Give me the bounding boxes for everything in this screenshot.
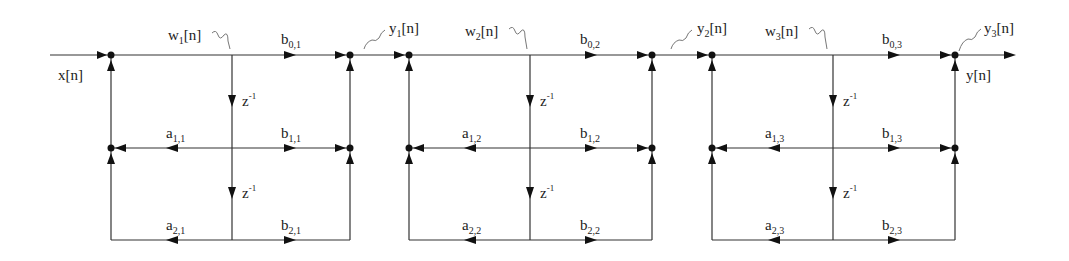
arrow-right-icon — [585, 144, 597, 152]
arrow-left-icon — [413, 144, 424, 152]
arrow-right-icon — [335, 144, 346, 152]
arrow-up-icon — [648, 153, 656, 164]
input-arrow-icon — [97, 51, 107, 59]
adder-node — [709, 52, 716, 59]
coef-a2: a2,2 — [462, 217, 481, 236]
arrow-right-icon — [637, 144, 648, 152]
arrow-up-icon — [346, 153, 354, 164]
coef-b1: b1,1 — [281, 125, 301, 144]
coef-b1: b1,2 — [580, 125, 600, 144]
arrow-right-icon — [940, 51, 951, 59]
adder-node — [709, 145, 716, 152]
coef-a2: a2,3 — [765, 217, 784, 236]
output-node-label: y3[n] — [984, 20, 1014, 39]
delay-label: z-1 — [843, 183, 857, 201]
arrow-right-icon — [697, 51, 708, 59]
coef-a1: a1,1 — [166, 125, 185, 144]
arrow-right-icon — [888, 236, 900, 244]
arrow-right-icon — [284, 51, 296, 59]
arrow-right-icon — [284, 236, 296, 244]
adder-node — [406, 145, 413, 152]
coef-b2: b2,3 — [882, 217, 902, 236]
coef-a1: a1,3 — [765, 125, 784, 144]
arrow-right-icon — [585, 236, 597, 244]
state-label: w2[n] — [465, 23, 498, 42]
section-2: z-1 z-1 w2[n] y2[n] b0,2 a1,2 b1,2 a2,2 … — [405, 20, 727, 244]
output-arrow-icon — [1004, 51, 1016, 59]
adder-node — [108, 52, 115, 59]
arrow-left-icon — [464, 236, 476, 244]
arrow-up-icon — [708, 60, 716, 71]
delay-label: z-1 — [843, 91, 857, 109]
adder-node — [406, 52, 413, 59]
arrow-down-icon — [526, 95, 534, 107]
arrow-right-icon — [585, 51, 597, 59]
coef-b0: b0,1 — [281, 31, 301, 50]
adder-node — [347, 52, 354, 59]
adder-node — [108, 145, 115, 152]
arrow-left-icon — [716, 144, 727, 152]
arrow-down-icon — [829, 187, 837, 199]
state-label: w1[n] — [168, 27, 201, 46]
coef-a1: a1,2 — [462, 125, 481, 144]
arrow-left-icon — [768, 144, 780, 152]
arrow-up-icon — [107, 153, 115, 164]
adder-node — [649, 52, 656, 59]
adder-node — [952, 145, 959, 152]
output-label: y[n] — [966, 67, 991, 83]
arrow-right-icon — [888, 144, 900, 152]
arrow-down-icon — [829, 95, 837, 107]
delay-label: z-1 — [242, 91, 256, 109]
coef-b1: b1,3 — [882, 125, 902, 144]
coef-b0: b0,3 — [882, 31, 902, 50]
arrow-up-icon — [405, 153, 413, 164]
arrow-down-icon — [228, 187, 236, 199]
output-node-label: y1[n] — [389, 20, 419, 39]
arrow-up-icon — [107, 60, 115, 71]
arrow-left-icon — [115, 144, 126, 152]
adder-node — [649, 145, 656, 152]
arrow-left-icon — [464, 144, 476, 152]
coef-b2: b2,1 — [281, 217, 301, 236]
arrow-up-icon — [648, 60, 656, 71]
delay-label: z-1 — [540, 183, 554, 201]
arrow-right-icon — [940, 144, 951, 152]
arrow-left-icon — [768, 236, 780, 244]
arrow-down-icon — [526, 187, 534, 199]
input-label: x[n] — [58, 67, 83, 83]
arrow-right-icon — [888, 51, 900, 59]
coef-b0: b0,2 — [580, 31, 600, 50]
state-label: w3[n] — [765, 23, 798, 42]
arrow-right-icon — [284, 144, 296, 152]
cascade-biquad-diagram: x[n] y[n] z-1 z-1 — [0, 0, 1069, 261]
arrow-left-icon — [166, 236, 178, 244]
arrow-up-icon — [346, 60, 354, 71]
arrow-right-icon — [637, 51, 648, 59]
arrow-up-icon — [951, 153, 959, 164]
arrow-left-icon — [166, 144, 178, 152]
coef-a2: a2,1 — [166, 217, 185, 236]
delay-label: z-1 — [540, 91, 554, 109]
arrow-right-icon — [335, 51, 346, 59]
delay-label: z-1 — [242, 183, 256, 201]
arrow-up-icon — [708, 153, 716, 164]
arrow-up-icon — [405, 60, 413, 71]
output-node-label: y2[n] — [697, 20, 727, 39]
adder-node — [347, 145, 354, 152]
arrow-down-icon — [228, 95, 236, 107]
section-3: z-1 z-1 w3[n] y3[n] b0,3 a1,3 b1,3 a2,3 … — [708, 20, 1014, 244]
section-1: z-1 z-1 w1[n] y1[n] b0,1 a1,1 b1,1 a2,1 … — [107, 20, 419, 244]
coef-b2: b2,2 — [580, 217, 600, 236]
arrow-up-icon — [951, 60, 959, 71]
arrow-right-icon — [394, 51, 405, 59]
adder-node — [952, 52, 959, 59]
